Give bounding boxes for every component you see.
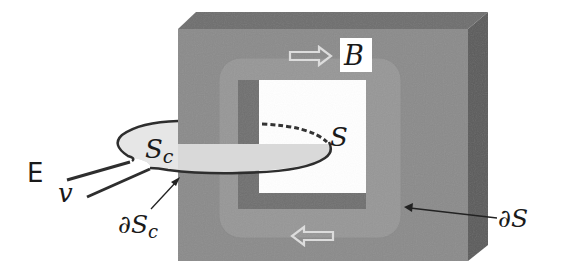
label-ds: ∂S	[498, 204, 528, 233]
magnetic-core-diagram: B Sc S E v ∂Sc ∂S	[0, 0, 574, 279]
label-e: E	[27, 158, 43, 188]
label-s: S	[330, 122, 348, 152]
window-surface-S	[259, 80, 366, 193]
core-top-face	[178, 12, 488, 29]
wire-lower	[87, 169, 150, 197]
label-v: v	[58, 178, 73, 208]
label-b: B	[343, 40, 364, 71]
pointer-dsc	[151, 177, 180, 209]
label-dsc: ∂Sc	[118, 210, 158, 242]
core-side-face	[468, 12, 488, 261]
wire-upper	[67, 162, 130, 180]
